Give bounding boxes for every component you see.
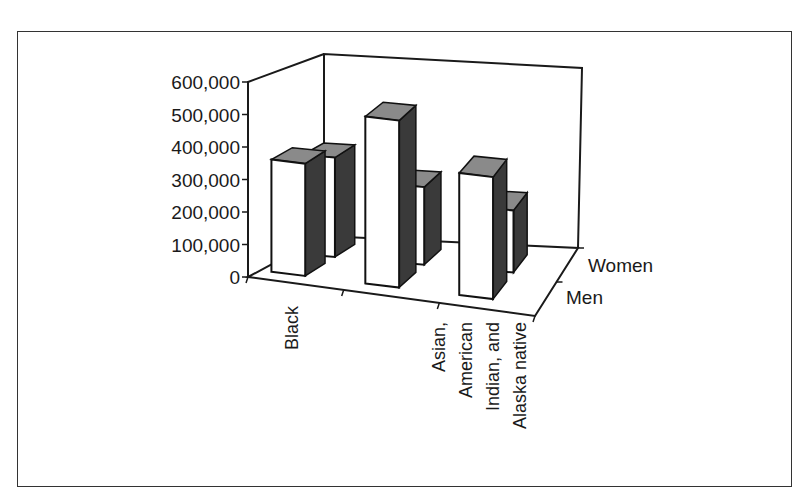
category-label: Indian, and <box>483 322 503 411</box>
bar-side <box>335 145 355 257</box>
category-label: American <box>456 322 476 398</box>
series-label-men: Men <box>566 287 603 308</box>
x-tick <box>342 290 344 296</box>
bar-front <box>271 159 305 276</box>
bar-men-2 <box>459 156 506 299</box>
y-tick-label: 500,000 <box>171 105 240 126</box>
bar-side <box>399 105 416 287</box>
bar-side <box>493 159 507 299</box>
y-tick-label: 200,000 <box>171 202 240 223</box>
x-tick <box>437 303 439 309</box>
category-label: Alaska native <box>510 322 530 429</box>
y-tick-label: 300,000 <box>171 170 240 191</box>
chart-3d-bar: 0100,000200,000300,000400,000500,000600,… <box>0 0 806 499</box>
y-tick-label: 0 <box>229 267 240 288</box>
y-tick-label: 600,000 <box>171 72 240 93</box>
category-label: Asian, <box>429 322 449 372</box>
bar-men-0 <box>271 148 325 276</box>
bar-front <box>365 116 399 287</box>
y-tick-label: 400,000 <box>171 137 240 158</box>
bars <box>271 102 527 299</box>
bar-front <box>459 173 493 299</box>
y-axis: 0100,000200,000300,000400,000500,000600,… <box>171 72 248 288</box>
bar-side <box>305 151 325 276</box>
depth-axis-series-labels: WomenMen <box>557 248 654 308</box>
x-tick <box>533 316 535 322</box>
bar-men-1 <box>365 102 416 287</box>
series-label-women: Women <box>588 255 653 276</box>
y-tick-label: 100,000 <box>171 235 240 256</box>
x-tick <box>246 277 248 283</box>
category-label: Black <box>282 305 302 350</box>
back-wall <box>324 54 582 248</box>
